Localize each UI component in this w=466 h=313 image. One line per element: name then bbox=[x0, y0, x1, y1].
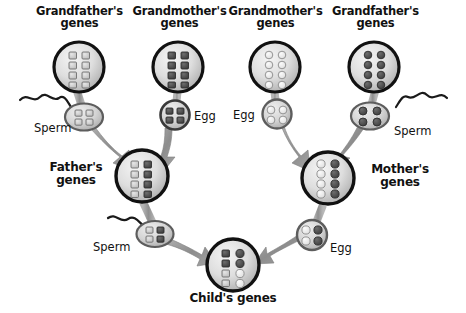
paternal-grandfather-sperm bbox=[65, 104, 103, 131]
mother-cell bbox=[302, 152, 354, 204]
child-cell bbox=[207, 239, 259, 291]
mother-egg bbox=[297, 220, 327, 250]
gene-inheritance-diagram: Grandfather's genes Grandmother's genes … bbox=[0, 0, 466, 313]
maternal-grandfather-cell bbox=[349, 42, 399, 92]
father-sperm bbox=[137, 221, 174, 247]
maternal-grandmother-egg bbox=[263, 100, 292, 129]
sperm-tail-paternal bbox=[20, 95, 71, 107]
father-cell bbox=[116, 150, 168, 202]
sperm-tail-maternal bbox=[396, 93, 447, 107]
maternal-grandfather-sperm bbox=[351, 103, 389, 130]
maternal-grandmother-cell bbox=[250, 42, 300, 92]
paternal-grandfather-cell bbox=[54, 42, 104, 92]
paternal-grandmother-cell bbox=[153, 42, 203, 92]
arrow-mother-egg-to-child bbox=[254, 235, 300, 264]
diagram-canvas bbox=[0, 0, 466, 313]
paternal-grandmother-egg bbox=[161, 101, 190, 130]
